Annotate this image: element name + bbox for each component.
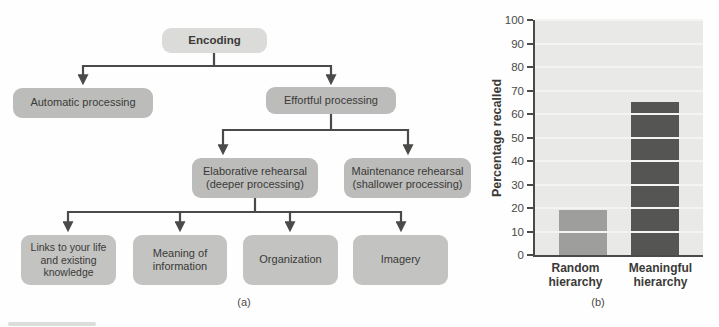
bar-random-hierarchy	[559, 210, 607, 255]
node-encoding: Encoding	[162, 28, 267, 53]
gridline	[535, 207, 703, 209]
gridline	[535, 231, 703, 233]
y-axis-tick-labels: 0102030405060708090100	[488, 20, 524, 255]
plot-area	[533, 20, 703, 257]
y-tick-label: 30	[511, 179, 524, 191]
node-label: Elaborative rehearsal	[203, 165, 307, 178]
node-organization: Organization	[243, 235, 338, 285]
gridline	[535, 19, 703, 21]
node-sublabel: (deeper processing)	[203, 178, 307, 191]
gridline	[535, 160, 703, 162]
node-imagery: Imagery	[353, 235, 448, 285]
panel-b-caption: (b)	[568, 296, 628, 308]
node-sublabel: (shallower processing)	[352, 178, 464, 191]
textbook-figure: Encoding Automatic processing Effortful …	[0, 0, 719, 327]
y-tick-label: 10	[511, 226, 524, 238]
x-axis-labels: Random hierarchyMeaningful hierarchy	[533, 262, 703, 290]
node-elaborative-rehearsal: Elaborative rehearsal (deeper processing…	[192, 158, 318, 198]
x-axis-label: Random hierarchy	[533, 262, 618, 290]
gridline	[535, 66, 703, 68]
y-tick-label: 20	[511, 202, 524, 214]
node-links-to-life: Links to your life and existing knowledg…	[21, 235, 116, 285]
node-label: Maintenance rehearsal	[352, 165, 464, 178]
cropped-figure-label-fragment	[8, 322, 96, 326]
gridline	[535, 184, 703, 186]
y-tick-label: 50	[511, 132, 524, 144]
y-tick-label: 0	[518, 249, 524, 261]
node-maintenance-rehearsal: Maintenance rehearsal (shallower process…	[344, 158, 471, 198]
node-meaning-of-information: Meaning of information	[133, 235, 227, 285]
y-tick-label: 70	[511, 85, 524, 97]
node-effortful-processing: Effortful processing	[266, 87, 396, 114]
gridline	[535, 90, 703, 92]
panel-a-caption: (a)	[214, 296, 274, 308]
node-automatic-processing: Automatic processing	[13, 88, 153, 118]
y-tick-label: 90	[511, 38, 524, 50]
y-tick-label: 100	[505, 14, 524, 26]
gridline	[535, 43, 703, 45]
y-tick-label: 60	[511, 108, 524, 120]
y-tick-label: 80	[511, 61, 524, 73]
y-tick-label: 40	[511, 155, 524, 167]
gridline	[535, 137, 703, 139]
x-axis-label: Meaningful hierarchy	[618, 262, 703, 290]
gridline	[535, 113, 703, 115]
